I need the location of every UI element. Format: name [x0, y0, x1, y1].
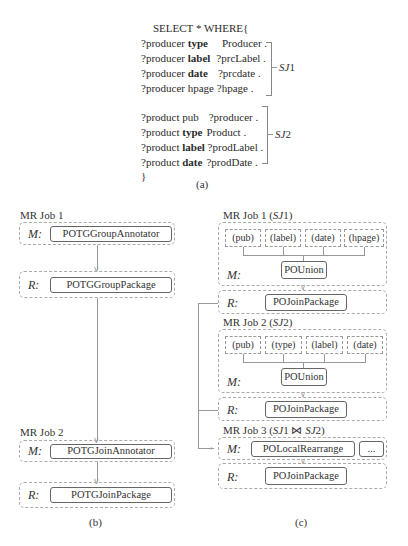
- job-title: MR Job 2: [20, 426, 63, 438]
- triple: ?product label ?prodLabel .: [141, 141, 263, 154]
- caption-b: (b): [89, 516, 102, 528]
- map-label: M:: [28, 444, 42, 459]
- operator-box: POJoinPackage: [265, 401, 347, 418]
- job-title: MR Job 2 (SJ2): [223, 316, 292, 328]
- triple: ?product date?prodDate .: [141, 156, 258, 169]
- connector-line: [198, 303, 199, 449]
- operator-box: POTGGroupAnnotator: [50, 226, 172, 242]
- operator-box: POUnion: [281, 368, 327, 386]
- triple: ?producer hpage ?hpage .: [141, 82, 253, 95]
- bracket: [266, 42, 272, 96]
- triple-pattern: (label): [265, 229, 301, 247]
- triple: ?producer label?prcLabel .: [141, 52, 266, 65]
- operator-box: POJoinPackage: [265, 294, 347, 311]
- more-operators-box: ...: [359, 441, 384, 457]
- reduce-label: R:: [28, 488, 39, 503]
- map-label: M:: [227, 375, 241, 390]
- triple-pattern: (hpage): [344, 229, 384, 247]
- operator-box: POTGJoinPackage: [50, 487, 172, 503]
- subquery-label: SJ2: [275, 128, 291, 140]
- triple-pattern: (pub): [225, 336, 261, 354]
- job-title: MR Job 1 (SJ1): [223, 209, 292, 221]
- arrow-head-icon: ›: [210, 442, 213, 452]
- job-title: MR Job 1: [20, 209, 63, 221]
- reduce-phase: R: POJoinPackage: [218, 397, 387, 421]
- triple-pattern: (pub): [225, 229, 261, 247]
- arrow-line: [97, 298, 98, 441]
- caption-c: (c): [295, 516, 307, 528]
- select-clause: SELECT * WHERE{: [153, 22, 248, 35]
- triple: ?product typeProduct .: [141, 126, 246, 139]
- triple: ?product pub?producer .: [141, 111, 258, 124]
- reduce-label: R:: [227, 470, 238, 485]
- operator-box: POJoinPackage: [265, 467, 347, 485]
- reduce-phase: R: POTGGroupPackage: [19, 271, 175, 298]
- triple: ?producer typeProducer .: [141, 37, 267, 50]
- caption-a: (a): [196, 178, 208, 190]
- bracket-tick: [267, 134, 273, 135]
- reduce-phase: R: POJoinPackage: [218, 290, 387, 314]
- reduce-label: R:: [227, 296, 238, 311]
- triple-pattern: (date): [305, 229, 341, 247]
- map-label: M:: [227, 442, 241, 457]
- map-phase: M: POTGJoinAnnotator: [19, 440, 175, 462]
- operator-box: POTGJoinAnnotator: [50, 444, 172, 459]
- connector-line: [198, 410, 218, 411]
- map-phase: M: POTGGroupAnnotator: [19, 222, 175, 245]
- closing-brace: }: [141, 170, 146, 183]
- connector-line: [198, 303, 218, 304]
- job-title: MR Job 3 (SJ1 ⋈ SJ2): [223, 424, 325, 437]
- map-phase: (pub) (type) (label) (date) M: POUnion: [218, 329, 387, 393]
- reduce-phase: R: POJoinPackage: [218, 463, 387, 489]
- map-label: M:: [227, 268, 241, 283]
- reduce-phase: R: POTGJoinPackage: [19, 482, 175, 508]
- triple-pattern: (label): [306, 336, 343, 354]
- operator-box: POTGGroupPackage: [50, 277, 172, 293]
- operator-box: POLocalRearrange: [251, 441, 355, 457]
- triple-pattern: (type): [265, 336, 302, 354]
- reduce-label: R:: [28, 278, 39, 293]
- bracket: [262, 106, 268, 164]
- reduce-label: R:: [227, 403, 238, 418]
- triple: ?producer date?prcdate .: [141, 67, 261, 80]
- bracket-tick: [271, 67, 277, 68]
- map-phase: (pub) (label) (date) (hpage) M: POUnion: [218, 222, 387, 286]
- subquery-label: SJ1: [279, 61, 295, 73]
- map-label: M:: [28, 227, 42, 242]
- triple-pattern: (date): [347, 336, 383, 354]
- operator-box: POUnion: [281, 261, 327, 279]
